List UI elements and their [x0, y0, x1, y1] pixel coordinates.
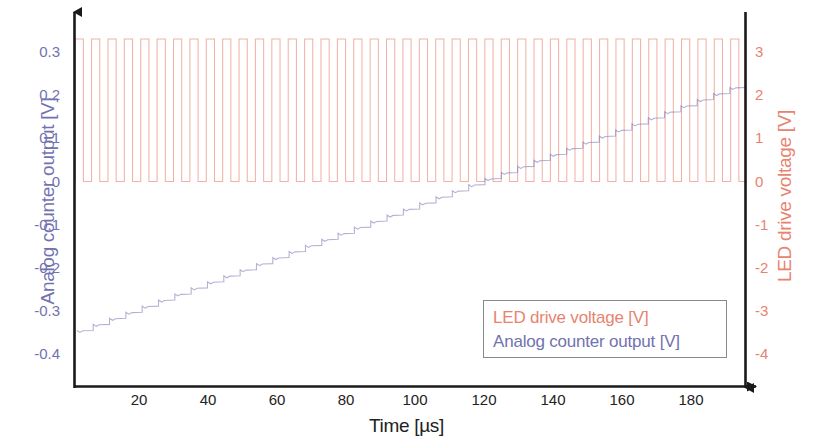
x-axis-title: Time [µs] — [0, 415, 813, 437]
tick-label: -2 — [755, 259, 801, 276]
tick-label: -0.3 — [14, 302, 60, 319]
tick-label: -0.4 — [14, 345, 60, 362]
legend-entry-led-drive-voltage: LED drive voltage [V] — [493, 306, 717, 330]
plot-canvas — [0, 0, 813, 444]
tick-label: -0.1 — [14, 216, 60, 233]
tick-label: 140 — [530, 391, 576, 408]
tick-label: 60 — [254, 391, 300, 408]
tick-label: 0.3 — [14, 43, 60, 60]
tick-label: 3 — [755, 43, 801, 60]
legend-entry-analog-counter-output: Analog counter output [V] — [493, 330, 717, 354]
chart-figure: Analog counter output [V] LED drive volt… — [0, 0, 813, 444]
led-drive-voltage-trace — [75, 39, 747, 181]
tick-label: 2 — [755, 86, 801, 103]
legend-box: LED drive voltage [V] Analog counter out… — [483, 300, 727, 358]
tick-label: 180 — [668, 391, 714, 408]
tick-label: -0.2 — [14, 259, 60, 276]
tick-label: -4 — [755, 345, 801, 362]
tick-label: 40 — [185, 391, 231, 408]
tick-label: 0.1 — [14, 129, 60, 146]
tick-label: 20 — [116, 391, 162, 408]
tick-label: 0 — [755, 173, 801, 190]
tick-label: -3 — [755, 302, 801, 319]
tick-label: 160 — [599, 391, 645, 408]
tick-label: 1 — [755, 129, 801, 146]
tick-label: 120 — [461, 391, 507, 408]
tick-label: 0 — [14, 173, 60, 190]
tick-label: 0.2 — [14, 86, 60, 103]
tick-label: -1 — [755, 216, 801, 233]
tick-label: 80 — [323, 391, 369, 408]
tick-label: 100 — [392, 391, 438, 408]
